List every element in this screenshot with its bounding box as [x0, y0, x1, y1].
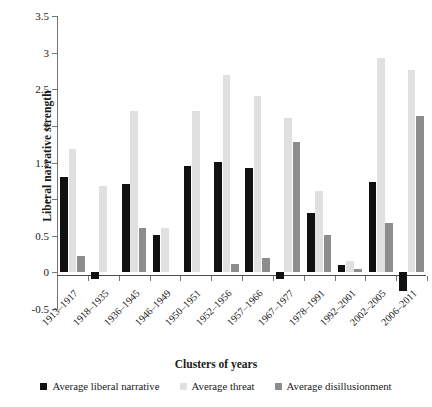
bar-group — [211, 14, 242, 309]
bar-average-disillusionment — [262, 258, 270, 272]
legend-label: Average liberal narrative — [52, 380, 159, 392]
bar-average-liberal-narrative — [276, 272, 284, 279]
legend-swatch-icon — [275, 383, 282, 390]
bar-average-disillusionment — [293, 142, 301, 272]
bar-average-threat — [346, 261, 354, 272]
bar-average-liberal-narrative — [214, 162, 222, 273]
legend-item: Average disillusionment — [275, 380, 392, 392]
chart-legend: Average liberal narrativeAverage threatA… — [0, 380, 432, 392]
bar-average-liberal-narrative — [338, 265, 346, 272]
bar-average-liberal-narrative — [153, 235, 161, 272]
bar-group — [119, 14, 150, 309]
bar-average-threat — [99, 186, 107, 272]
bar-average-liberal-narrative — [184, 166, 192, 272]
bar-group — [273, 14, 304, 309]
bar-chart-figure: Liberal narrative strength -0.500.511.52… — [0, 0, 432, 407]
y-tick-label: 2 — [44, 120, 50, 132]
bar-group — [396, 14, 427, 309]
legend-item: Average liberal narrative — [40, 380, 159, 392]
y-tick-label: 1 — [44, 193, 50, 205]
bar-average-liberal-narrative — [399, 272, 407, 291]
y-tick-label: 1.5 — [35, 157, 49, 169]
bar-group — [304, 14, 335, 309]
bar-average-threat — [223, 75, 231, 273]
x-tick-mark — [427, 276, 428, 281]
bar-average-threat — [315, 191, 323, 272]
legend-label: Average threat — [192, 380, 255, 392]
y-tick-label: 3.5 — [35, 10, 49, 22]
bar-average-liberal-narrative — [307, 213, 315, 272]
bar-group — [88, 14, 119, 309]
y-tick-label: 3 — [44, 47, 50, 59]
bar-average-threat — [377, 58, 385, 273]
bar-average-threat — [130, 111, 138, 272]
bar-average-liberal-narrative — [245, 168, 253, 273]
bar-average-threat — [408, 70, 416, 272]
bar-average-liberal-narrative — [91, 272, 99, 279]
y-tick-label: 2.5 — [35, 83, 49, 95]
legend-label: Average disillusionment — [287, 380, 392, 392]
bar-average-disillusionment — [416, 116, 424, 272]
bar-average-disillusionment — [139, 228, 147, 273]
bar-group — [365, 14, 396, 309]
bar-average-disillusionment — [354, 269, 362, 272]
bar-average-disillusionment — [324, 235, 332, 272]
legend-swatch-icon — [180, 383, 187, 390]
bar-average-liberal-narrative — [122, 184, 130, 273]
bar-average-disillusionment — [385, 223, 393, 273]
bar-average-threat — [254, 96, 262, 273]
legend-swatch-icon — [40, 383, 47, 390]
bar-average-threat — [284, 118, 292, 273]
bar-group — [180, 14, 211, 309]
y-tick-label: 0 — [44, 266, 50, 278]
bar-group — [335, 14, 366, 309]
x-axis-title: Clusters of years — [0, 358, 432, 370]
bar-group — [57, 14, 88, 309]
bar-average-liberal-narrative — [60, 177, 68, 272]
bar-group — [150, 14, 181, 309]
bar-average-threat — [192, 111, 200, 272]
y-tick-label: 0.5 — [35, 230, 49, 242]
bar-average-threat — [161, 228, 169, 272]
legend-item: Average threat — [180, 380, 255, 392]
bar-average-liberal-narrative — [369, 182, 377, 273]
bar-average-disillusionment — [231, 264, 239, 272]
bar-average-disillusionment — [77, 256, 85, 273]
bar-average-threat — [69, 149, 77, 272]
bar-group — [242, 14, 273, 309]
plot-area: -0.500.511.522.533.5 — [57, 14, 427, 309]
